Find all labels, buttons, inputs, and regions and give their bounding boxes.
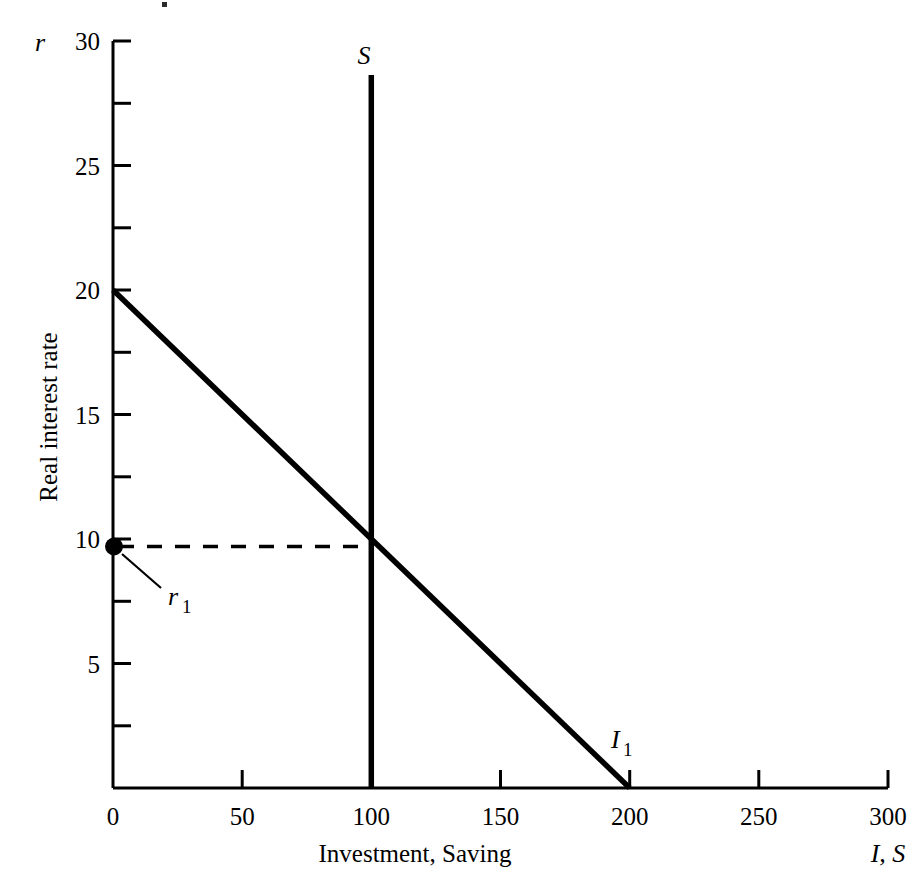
r1-leader-line <box>122 554 161 588</box>
x-tick-label-200: 200 <box>611 803 649 830</box>
equilibrium-point-marker <box>105 538 123 556</box>
x-tick-label-0: 0 <box>107 803 120 830</box>
x-tick-label-150: 150 <box>482 803 520 830</box>
y-axis-title: Real interest rate <box>35 332 62 501</box>
saving-curve-label: S <box>358 41 371 70</box>
investment-curve-label-subscript: 1 <box>623 739 633 760</box>
x-tick-labels: 0 50 100 150 200 250 300 <box>107 803 907 830</box>
y-axis-variable-label: r <box>35 28 46 57</box>
y-tick-label-15: 15 <box>75 402 100 429</box>
y-tick-labels: 30 25 20 15 10 5 <box>75 28 100 678</box>
x-tick-label-50: 50 <box>230 803 255 830</box>
equilibrium-rate-label-subscript: 1 <box>182 596 192 617</box>
y-tick-label-30: 30 <box>75 28 100 55</box>
x-tick-label-250: 250 <box>740 803 778 830</box>
y-tick-label-5: 5 <box>88 651 101 678</box>
y-tick-label-10: 10 <box>75 526 100 553</box>
x-axis-variable-label: I, S <box>870 839 906 868</box>
x-axis-title: Investment, Saving <box>318 840 512 867</box>
x-axis-ticks <box>242 770 759 788</box>
investment-curve-label-letter: I <box>610 725 621 754</box>
axis-lines <box>113 41 888 788</box>
investment-curve-label: I 1 <box>610 725 633 760</box>
investment-saving-chart: 30 25 20 15 10 5 0 50 100 150 200 250 30… <box>0 0 924 889</box>
y-tick-label-25: 25 <box>75 153 100 180</box>
equilibrium-rate-label: r 1 <box>168 582 192 617</box>
x-tick-label-300: 300 <box>869 803 907 830</box>
x-tick-label-100: 100 <box>353 803 391 830</box>
equilibrium-rate-label-letter: r <box>168 582 179 611</box>
y-tick-label-20: 20 <box>75 277 100 304</box>
economics-figure: 30 25 20 15 10 5 0 50 100 150 200 250 30… <box>0 0 924 889</box>
y-axis-ticks <box>113 103 131 726</box>
